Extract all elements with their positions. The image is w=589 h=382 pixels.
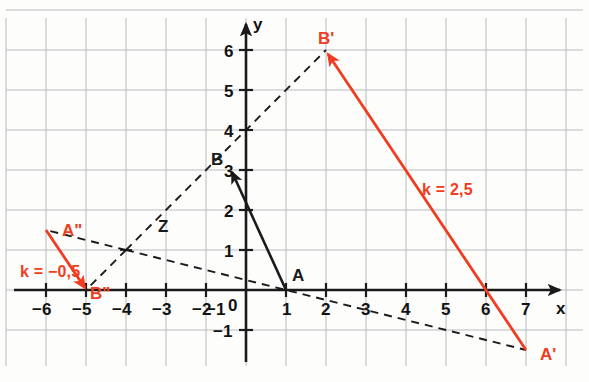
point-label-Z: Z bbox=[158, 218, 168, 235]
tick-x--4: −4 bbox=[112, 301, 131, 318]
tick-x--5: −5 bbox=[72, 301, 91, 318]
axis-x-name: x bbox=[556, 300, 565, 317]
point-label-B: B bbox=[211, 151, 223, 168]
grid-lines bbox=[6, 10, 583, 366]
axis-y-name: y bbox=[253, 16, 262, 33]
tick-y-4: 4 bbox=[224, 123, 233, 140]
tick-x-3: 3 bbox=[361, 301, 370, 318]
tick-x-5: 5 bbox=[441, 301, 450, 318]
point-label-A-prime: A' bbox=[540, 346, 556, 363]
tick-y-6: 6 bbox=[224, 43, 233, 60]
tick-x-7: 7 bbox=[521, 301, 530, 318]
dilation-figure: y x 0 −6 −5 −4 −3 −2 −1 1 2 3 4 5 6 7 6 … bbox=[0, 0, 589, 382]
coordinate-plane-canvas bbox=[0, 0, 589, 382]
tick-x-4: 4 bbox=[401, 301, 410, 318]
tick-y-5: 5 bbox=[224, 83, 233, 100]
point-label-B-double-prime: B" bbox=[90, 285, 110, 302]
point-label-B-prime: B' bbox=[318, 30, 334, 47]
vector-A-prime-B-prime bbox=[328, 54, 526, 350]
origin-label: 0 bbox=[228, 297, 237, 314]
point-label-A: A bbox=[292, 267, 304, 284]
tick-x--3: −3 bbox=[152, 301, 171, 318]
tick-y--1: −1 bbox=[213, 323, 232, 340]
tick-x-2: 2 bbox=[321, 301, 330, 318]
annotation-k-positive: k = 2,5 bbox=[422, 182, 473, 198]
tick-x-6: 6 bbox=[481, 301, 490, 318]
tick-y-1: 1 bbox=[224, 243, 233, 260]
tick-y-3: 3 bbox=[224, 163, 233, 180]
tick-x--1: −1 bbox=[206, 301, 225, 318]
tick-x--6: −6 bbox=[32, 301, 51, 318]
vector-AB bbox=[232, 172, 286, 290]
point-label-A-double-prime: A" bbox=[62, 222, 82, 239]
annotation-k-negative: k = −0,5 bbox=[20, 264, 80, 280]
tick-x-1: 1 bbox=[282, 301, 291, 318]
tick-y-2: 2 bbox=[224, 203, 233, 220]
